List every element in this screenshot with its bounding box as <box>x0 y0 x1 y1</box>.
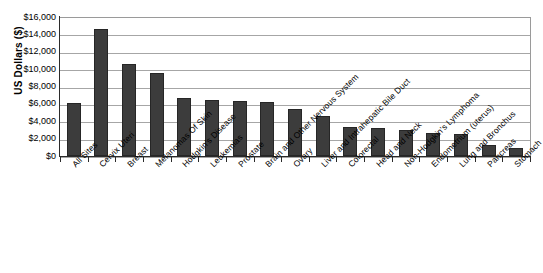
bar-slot <box>60 17 88 156</box>
y-axis-tick-label: $10,000 <box>12 65 56 74</box>
bar-slot <box>254 17 282 156</box>
y-axis-tick-label: $16,000 <box>12 13 56 22</box>
y-axis-tick-label: $14,000 <box>12 30 56 39</box>
y-axis-tick-label: $2,000 <box>12 134 56 143</box>
y-axis-tick-label: $12,000 <box>12 47 56 56</box>
y-axis-tick-label: $0 <box>12 152 56 161</box>
bar <box>67 103 81 156</box>
y-axis-tick-label: $4,000 <box>12 117 56 126</box>
y-axis-tick-labels: $16,000$14,000$12,000$10,000$8,000$6,000… <box>12 0 56 170</box>
bar-slot <box>143 17 171 156</box>
x-axis-tick-labels: All SitesCervix UteriBreastMelanomas Of … <box>60 162 530 272</box>
bar-slot <box>364 17 392 156</box>
bar <box>150 73 164 156</box>
bar-slot <box>309 17 337 156</box>
bar <box>94 29 108 156</box>
bar-slot <box>502 17 530 156</box>
y-axis-tick-label: $6,000 <box>12 99 56 108</box>
bar-slot <box>88 17 116 156</box>
y-axis-tick-label: $8,000 <box>12 82 56 91</box>
bar <box>316 116 330 156</box>
